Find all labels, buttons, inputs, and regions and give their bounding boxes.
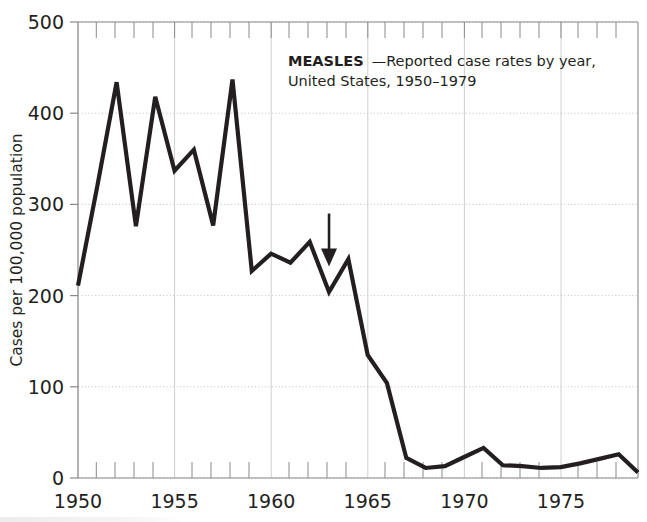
y-tick-label-500: 500 <box>28 11 64 33</box>
y-tick-label-200: 200 <box>28 285 64 307</box>
chart-canvas: 500 400 300 200 100 0 1950 1955 1960 196… <box>0 0 647 522</box>
x-tick-label-1975: 1975 <box>537 490 585 512</box>
chart-title-measles: MEASLES <box>288 53 364 69</box>
measles-case-rate-figure: 500 400 300 200 100 0 1950 1955 1960 196… <box>0 0 647 522</box>
chart-title-line2: United States, 1950–1979 <box>288 73 476 89</box>
y-tick-label-400: 400 <box>28 102 64 124</box>
x-tick-label-1965: 1965 <box>344 490 392 512</box>
chart-title-rest: —Reported case rates by year, <box>372 53 596 69</box>
y-tick-labels: 500 400 300 200 100 0 <box>28 11 64 489</box>
y-tick-label-0: 0 <box>52 467 64 489</box>
y-axis-ticks <box>70 22 78 478</box>
x-tick-labels: 1950 1955 1960 1965 1970 1975 <box>54 490 585 512</box>
y-tick-label-300: 300 <box>28 193 64 215</box>
y-tick-label-100: 100 <box>28 376 64 398</box>
page-edge-artifact <box>0 517 186 522</box>
plot-background <box>78 22 638 478</box>
x-tick-label-1960: 1960 <box>247 490 295 512</box>
chart-title-line1: MEASLES —Reported case rates by year, <box>288 51 596 70</box>
x-tick-label-1970: 1970 <box>440 490 488 512</box>
x-tick-label-1950: 1950 <box>54 490 102 512</box>
y-axis-title: Cases per 100,000 population <box>8 133 26 366</box>
x-tick-label-1955: 1955 <box>150 490 198 512</box>
